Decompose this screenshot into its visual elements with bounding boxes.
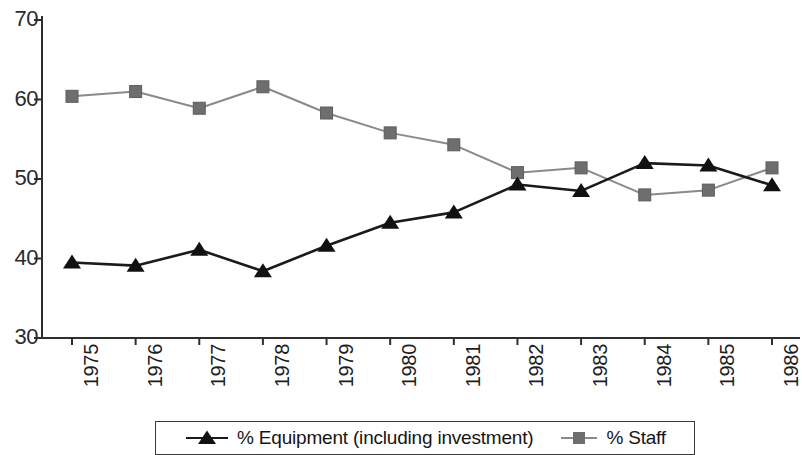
legend-label-equipment: % Equipment (including investment) [237, 427, 533, 449]
x-axis-tick-label: 1977 [207, 344, 230, 387]
x-axis-tick-label: 1982 [525, 344, 548, 387]
x-axis-tick-label: 1976 [144, 344, 167, 387]
x-axis-tick-label: 1979 [335, 344, 358, 387]
line-chart: 7060504030 19751976197719781979198019811… [0, 0, 802, 455]
x-axis-tick-label: 1980 [398, 344, 421, 387]
x-axis-tick-label: 1978 [271, 344, 294, 387]
legend-label-staff: % Staff [606, 427, 666, 449]
x-axis-tick-labels: 1975197619771978197919801981198219831984… [0, 338, 802, 418]
triangle-marker-icon [184, 429, 230, 447]
data-point-marker [193, 102, 205, 114]
data-point-marker [575, 162, 587, 174]
series-staff [66, 81, 778, 201]
data-point-marker [63, 254, 81, 268]
data-point-marker [384, 127, 396, 139]
data-point-marker [702, 184, 714, 196]
data-point-marker [766, 162, 778, 174]
data-point-marker [66, 90, 78, 102]
data-point-marker [190, 242, 208, 256]
chart-legend: % Equipment (including investment) % Sta… [155, 421, 695, 455]
data-point-marker [639, 189, 651, 201]
data-point-marker [257, 81, 269, 93]
series-equipment [63, 155, 781, 277]
square-marker-icon [559, 429, 599, 447]
data-point-marker [130, 86, 142, 98]
data-point-marker [445, 204, 463, 218]
x-axis-tick-label: 1981 [462, 344, 485, 387]
x-axis-tick-label: 1986 [780, 344, 802, 387]
series-line [72, 87, 772, 195]
plot-area [0, 0, 802, 345]
x-axis-tick-label: 1975 [80, 344, 103, 387]
legend-item-equipment: % Equipment (including investment) [184, 427, 533, 449]
x-axis-tick-label: 1985 [716, 344, 739, 387]
x-axis-tick-label: 1984 [653, 344, 676, 387]
legend-item-staff: % Staff [559, 427, 666, 449]
x-axis-tick-label: 1983 [589, 344, 612, 387]
data-point-marker [448, 139, 460, 151]
data-point-marker [321, 107, 333, 119]
series-line [72, 163, 772, 271]
